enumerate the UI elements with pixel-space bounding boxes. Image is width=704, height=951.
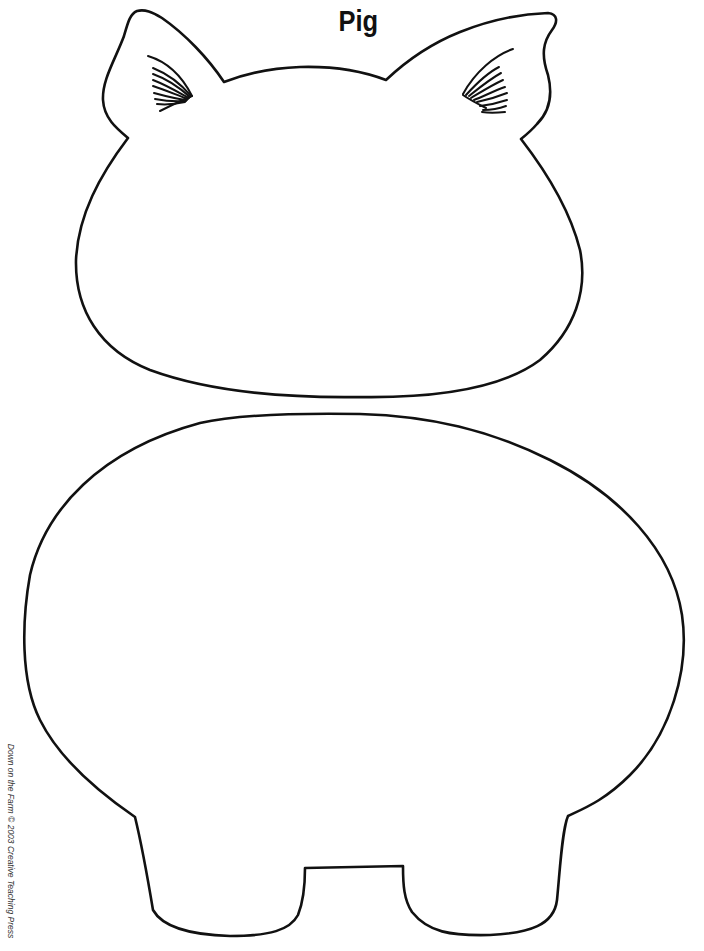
right-ear-line xyxy=(482,112,505,113)
pig-illustration xyxy=(0,0,704,951)
pig-body-outline xyxy=(24,414,683,936)
copyright-notice: Down on the Farm © 2003 Creative Teachin… xyxy=(5,736,17,946)
pig-head-outline xyxy=(76,10,582,397)
